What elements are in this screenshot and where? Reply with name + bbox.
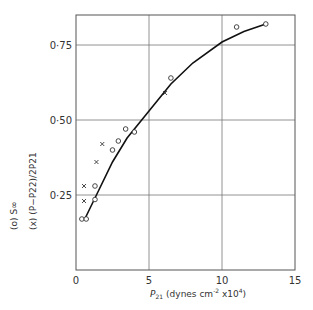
cross-marker (94, 160, 98, 164)
y-axis-label-crosses: (x) (P−P22)/2P21 (28, 152, 38, 230)
x-axis-label: P21(dynes cm-2 x104) (150, 287, 246, 300)
circle-marker (110, 148, 115, 153)
circle-marker (132, 130, 137, 135)
y-tick-label: 0·25 (50, 190, 72, 201)
circle-marker (116, 139, 121, 144)
plot-frame (76, 15, 295, 270)
grid (76, 15, 295, 270)
x-tick-label: 0 (73, 275, 79, 286)
x-tick-label: 10 (216, 275, 229, 286)
circle-marker (264, 22, 269, 27)
x-tick-label: 15 (289, 275, 302, 286)
cross-marker (82, 184, 86, 188)
circle-marker (93, 184, 98, 189)
circle-marker (169, 76, 174, 81)
cross-marker (82, 199, 86, 203)
circle-marker (80, 217, 85, 222)
data-points (80, 22, 269, 222)
circle-marker (234, 25, 239, 30)
x-tick-label: 5 (146, 275, 152, 286)
circle-marker (123, 127, 128, 132)
cross-marker (100, 142, 104, 146)
circle-marker (93, 197, 98, 202)
axis-ticks: 0510150·250·500·75 (50, 40, 302, 286)
circle-marker (84, 217, 89, 222)
fitted-curve (85, 24, 266, 219)
y-tick-label: 0·75 (50, 40, 72, 51)
chart: 0510150·250·500·75 P21(dynes cm-2 x104) … (0, 0, 313, 310)
y-axis-label-circles: (o) S∞ (9, 201, 19, 230)
y-tick-label: 0·50 (50, 115, 72, 126)
